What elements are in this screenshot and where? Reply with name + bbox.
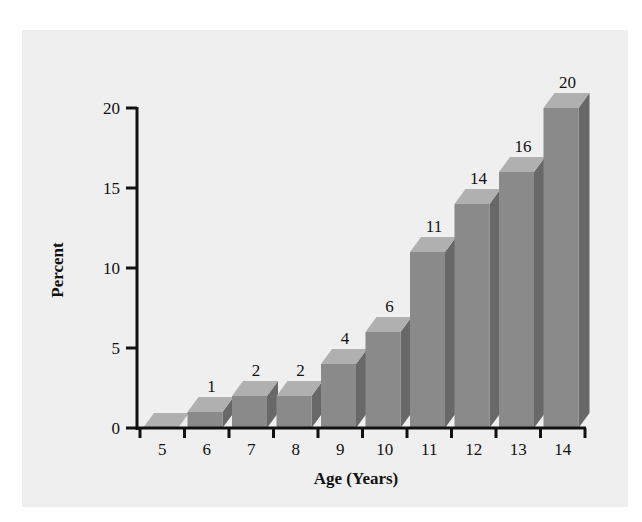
bar-age-11: 11: [410, 217, 456, 428]
y-tick-label: 20: [103, 99, 120, 118]
value-label: 6: [385, 297, 394, 316]
value-label: 16: [515, 137, 532, 156]
y-axis: 05101520Percent: [48, 99, 137, 438]
x-tick-label: 7: [247, 440, 256, 459]
value-label: 2: [296, 361, 305, 380]
x-axis-title: Age (Years): [314, 469, 399, 488]
bar-age-5: [143, 413, 189, 428]
caption-clipped: [0, 507, 642, 522]
bar-age-13: 16: [499, 137, 545, 428]
bar-age-9: 4: [321, 329, 367, 428]
value-label: 11: [426, 217, 442, 236]
bar-age-6: 1: [188, 377, 234, 428]
y-tick-label: 15: [103, 179, 120, 198]
bar-chart: 122461114162005101520Percent567891011121…: [0, 0, 642, 522]
y-tick-label: 0: [112, 419, 121, 438]
value-label: 4: [341, 329, 350, 348]
x-axis: 567891011121314Age (Years): [136, 428, 586, 488]
x-tick-label: 5: [158, 440, 167, 459]
bar-age-10: 6: [366, 297, 412, 428]
value-label: 1: [207, 377, 216, 396]
value-label: 2: [252, 361, 261, 380]
y-axis-title: Percent: [48, 242, 67, 298]
x-tick-label: 12: [465, 440, 482, 459]
bar-age-14: 20: [544, 73, 590, 428]
x-tick-label: 6: [203, 440, 212, 459]
y-tick-label: 10: [103, 259, 120, 278]
value-label: 14: [470, 169, 488, 188]
x-tick-label: 9: [336, 440, 345, 459]
x-tick-label: 11: [421, 440, 437, 459]
x-tick-label: 13: [510, 440, 527, 459]
bar-age-8: 2: [277, 361, 323, 428]
x-tick-label: 8: [292, 440, 301, 459]
value-label: 20: [559, 73, 576, 92]
bar-age-7: 2: [232, 361, 278, 428]
x-tick-label: 10: [376, 440, 393, 459]
bar-age-12: 14: [455, 169, 501, 428]
x-tick-label: 14: [554, 440, 572, 459]
bars: 1224611141620: [143, 73, 590, 428]
y-tick-label: 5: [112, 339, 121, 358]
